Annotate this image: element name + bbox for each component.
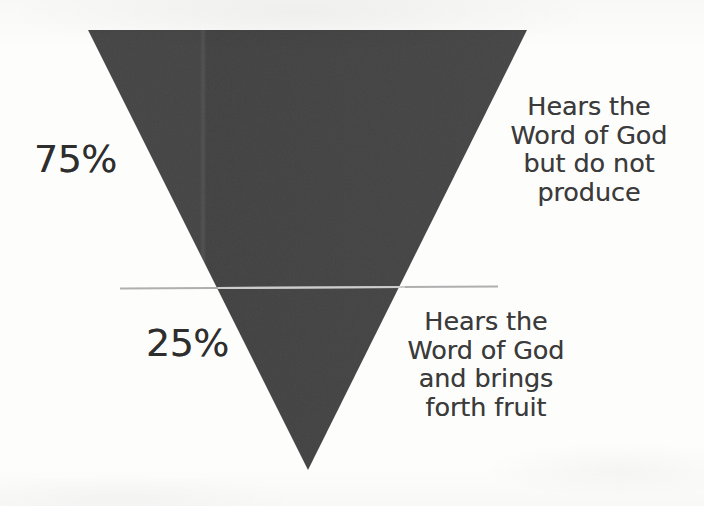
lower-description-line-4: forth fruit: [398, 393, 574, 422]
lower-description-line-2: Word of God: [398, 336, 574, 365]
inverted-triangle-chart: [0, 0, 704, 506]
segment-divider-line-highlight: [218, 287, 405, 288]
upper-segment-description: Hears the Word of God but do not produce: [498, 92, 680, 206]
upper-segment-percent-label: 75%: [34, 140, 117, 178]
diagram-canvas: 75% 25% Hears the Word of God but do not…: [0, 0, 704, 506]
upper-description-line-3: but do not: [498, 149, 680, 178]
lower-description-line-1: Hears the: [398, 307, 574, 336]
lower-description-line-3: and brings: [398, 364, 574, 393]
upper-description-line-2: Word of God: [498, 121, 680, 150]
lower-segment-percent-label: 25%: [146, 324, 229, 362]
upper-description-line-1: Hears the: [498, 92, 680, 121]
lower-segment-description: Hears the Word of God and brings forth f…: [398, 307, 574, 421]
upper-description-line-4: produce: [498, 178, 680, 207]
